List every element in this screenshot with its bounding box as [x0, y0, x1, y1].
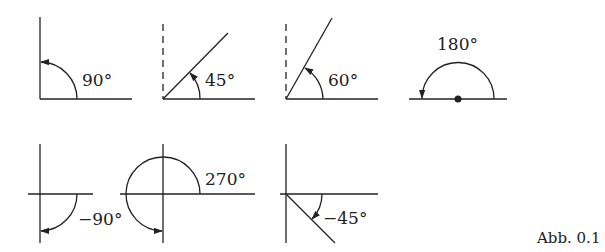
angle-minus-90-diagram: −90° — [28, 144, 122, 243]
arc-arrow-icon — [41, 62, 77, 99]
angle-label: 180° — [437, 34, 478, 54]
arc-arrow-icon — [305, 68, 323, 99]
angle-label: 45° — [205, 70, 235, 90]
angle-diagrams: 90° 45° 60° 180° −90° 270° — [0, 0, 605, 252]
angle-label: −45° — [323, 208, 367, 228]
figure-caption: Abb. 0.1 — [536, 229, 600, 247]
angle-label: 60° — [328, 70, 358, 90]
angle-90-diagram: 90° — [40, 17, 132, 99]
angle-180-diagram: 180° — [409, 34, 507, 103]
arc-arrow-icon — [190, 73, 200, 99]
angle-45-diagram: 45° — [163, 24, 255, 99]
angle-270-diagram: 270° — [120, 144, 255, 243]
arc-arrow-icon — [41, 194, 77, 231]
angle-label: −90° — [78, 209, 122, 229]
angle-label: 270° — [205, 169, 246, 189]
arc-arrow-icon — [422, 62, 494, 99]
vertex-dot-icon — [455, 96, 462, 103]
arc-arrow-icon — [312, 194, 322, 219]
angle-60-diagram: 60° — [286, 18, 378, 99]
angle-label: 90° — [82, 70, 112, 90]
angle-figure: 90° 45° 60° 180° −90° 270° — [0, 0, 605, 252]
angle-minus-45-diagram: −45° — [280, 144, 378, 243]
